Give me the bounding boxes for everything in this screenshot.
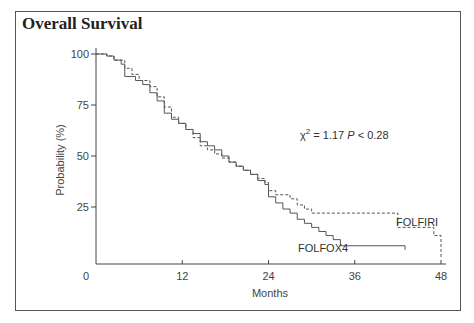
survival-chart: 255075100 012243648 Probability (%) Mont… — [0, 0, 474, 323]
x-tick-label: 12 — [176, 270, 188, 282]
y-ticks: 255075100 — [71, 48, 96, 213]
x-tick-label: 24 — [262, 270, 274, 282]
y-tick-label: 75 — [77, 99, 89, 111]
x-axis-label: Months — [252, 287, 289, 299]
chi-square-annotation: χ2 = 1.17 P < 0.28 — [300, 127, 389, 141]
y-tick-label: 50 — [77, 150, 89, 162]
x-tick-label: 48 — [435, 270, 447, 282]
x-tick-label: 0 — [83, 270, 89, 282]
x-tick-label: 36 — [349, 270, 361, 282]
y-tick-label: 100 — [71, 48, 89, 60]
y-tick-label: 25 — [77, 201, 89, 213]
survival-curves — [96, 54, 441, 258]
folfox4-label: FOLFOX4 — [298, 242, 348, 254]
folfiri-label: FOLFIRI — [396, 216, 438, 228]
folfox4-curve — [96, 54, 405, 250]
x-ticks: 012243648 — [83, 260, 447, 282]
y-axis-label: Probability (%) — [54, 124, 66, 196]
axes — [96, 48, 446, 264]
